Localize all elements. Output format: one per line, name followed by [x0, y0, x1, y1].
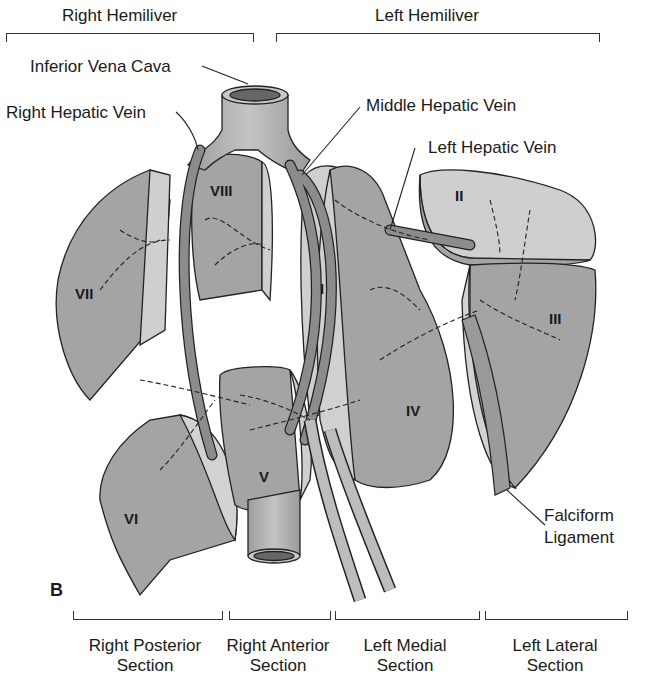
- left-medial-bracket: [335, 611, 480, 620]
- segment-label-i: I: [320, 280, 324, 297]
- left-lateral-line2: Section: [490, 656, 620, 676]
- segment-label-ii: II: [455, 187, 463, 204]
- segment-label-vii: VII: [75, 285, 93, 302]
- right-anterior-line2: Section: [214, 656, 342, 676]
- falciform-callout-line1: Falciform: [544, 506, 614, 526]
- left-hepatic-vein-callout: Left Hepatic Vein: [428, 138, 557, 158]
- right-hepatic-vein-callout: Right Hepatic Vein: [6, 103, 146, 123]
- left-medial-section-label: Left Medial Section: [340, 636, 470, 676]
- left-medial-line1: Left Medial: [340, 636, 470, 656]
- segment-label-iii: III: [549, 310, 562, 327]
- falciform-callout-line2: Ligament: [544, 528, 614, 548]
- segment-label-v: V: [259, 468, 269, 485]
- right-anterior-section-label: Right Anterior Section: [214, 636, 342, 676]
- right-posterior-line1: Right Posterior: [70, 636, 220, 656]
- left-medial-line2: Section: [340, 656, 470, 676]
- segment-label-vi: VI: [124, 510, 138, 527]
- middle-hepatic-vein-callout: Middle Hepatic Vein: [366, 96, 516, 116]
- right-anterior-bracket: [229, 611, 331, 620]
- segment-label-viii: VIII: [210, 182, 233, 199]
- right-anterior-line1: Right Anterior: [214, 636, 342, 656]
- segment-viii-lobe: [192, 154, 262, 300]
- left-lateral-bracket: [485, 611, 628, 620]
- right-posterior-line2: Section: [70, 656, 220, 676]
- right-posterior-section-label: Right Posterior Section: [70, 636, 220, 676]
- ivc-callout: Inferior Vena Cava: [30, 57, 171, 77]
- panel-label: B: [50, 580, 63, 601]
- right-posterior-bracket: [73, 611, 223, 620]
- left-lateral-line1: Left Lateral: [490, 636, 620, 656]
- segment-v-lobe: [220, 367, 300, 511]
- segment-label-iv: IV: [406, 402, 420, 419]
- left-lateral-section-label: Left Lateral Section: [490, 636, 620, 676]
